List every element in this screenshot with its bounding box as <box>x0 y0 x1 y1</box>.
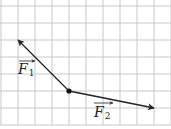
vector-f2-arrow <box>69 91 154 108</box>
f2-subscript: 2 <box>105 111 111 121</box>
f2-label: F2 <box>94 105 110 121</box>
f1-symbol: F <box>18 61 28 77</box>
f1-label: F1 <box>18 62 34 78</box>
application-point <box>66 88 71 93</box>
f2-symbol: F <box>94 104 104 120</box>
f1-subscript: 1 <box>29 68 35 78</box>
